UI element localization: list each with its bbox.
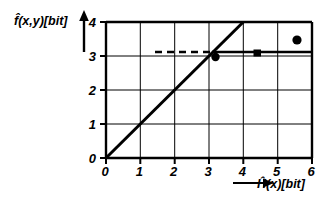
data-point: [211, 53, 219, 61]
data-point: [254, 50, 262, 57]
data-point: [292, 35, 301, 44]
chart-canvas: 4 3 2 1 0 0 1 2 3 4 5 6 f̂(x,y)[bit] Ĥ(x…: [0, 0, 328, 200]
x-axis-label: Ĥ(x)[bit]: [257, 176, 306, 191]
x-tick-label: 0: [101, 164, 109, 179]
x-tick-label: 1: [136, 164, 143, 179]
y-tick-label: 2: [88, 83, 97, 98]
x-tick-label: 6: [307, 164, 315, 179]
plot-grid: [106, 22, 312, 158]
y-tick-label: 0: [89, 151, 97, 166]
y-tick-label: 3: [89, 49, 97, 64]
y-axis-label: f̂(x,y)[bit]: [14, 13, 68, 28]
x-tick-label: 3: [204, 164, 212, 179]
y-tick-label: 1: [89, 117, 96, 132]
y-axis-arrow-icon: [79, 10, 89, 52]
y-tick-label: 4: [88, 15, 97, 30]
x-tick-label: 2: [169, 164, 178, 179]
x-tick-label: 4: [238, 164, 247, 179]
